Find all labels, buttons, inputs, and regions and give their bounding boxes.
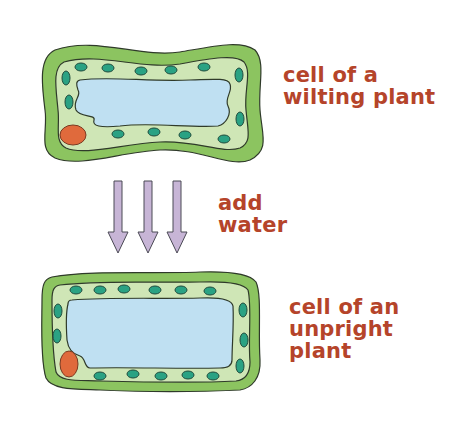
add-water-arrows — [108, 181, 187, 253]
nucleus — [60, 125, 86, 145]
upright-cell-label: cell of an unpright plant — [289, 296, 399, 362]
label-line: cell of an — [289, 296, 399, 318]
label-line: plant — [289, 340, 399, 362]
label-line: unpright — [289, 318, 399, 340]
arrow-down-icon — [167, 181, 187, 253]
vacuole — [66, 298, 233, 368]
label-line: wilting plant — [283, 86, 435, 108]
arrow-down-icon — [138, 181, 158, 253]
nucleus — [60, 351, 78, 377]
vacuole — [75, 79, 231, 127]
label-line: add — [218, 192, 287, 214]
wilting-cell — [42, 45, 263, 162]
wilting-cell-label: cell of a wilting plant — [283, 64, 435, 108]
label-line: water — [218, 214, 287, 236]
upright-cell — [42, 272, 260, 392]
arrow-down-icon — [108, 181, 128, 253]
add-water-label: add water — [218, 192, 287, 236]
label-line: cell of a — [283, 64, 435, 86]
